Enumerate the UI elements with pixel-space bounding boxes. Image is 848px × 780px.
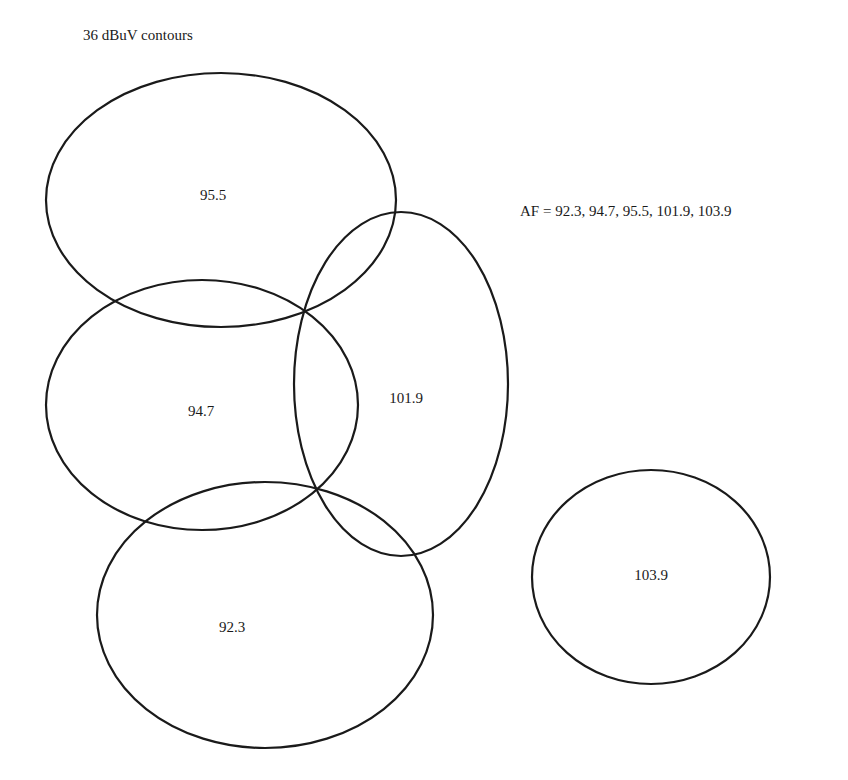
contour-label-92-3: 92.3: [219, 619, 245, 636]
contour-ellipse-101-9: [294, 212, 508, 556]
contour-label-101-9: 101.9: [389, 390, 423, 407]
contour-label-95-5: 95.5: [200, 187, 226, 204]
contour-label-94-7: 94.7: [188, 403, 214, 420]
contour-diagram: [0, 0, 848, 780]
contour-label-103-9: 103.9: [634, 567, 668, 584]
